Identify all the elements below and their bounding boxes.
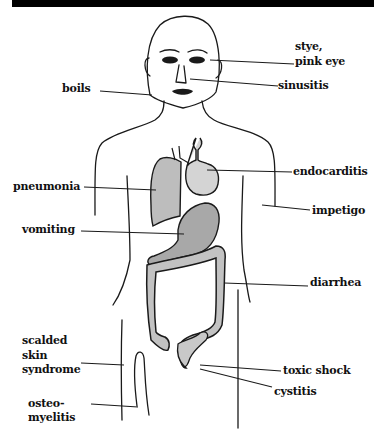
label-endocarditis: endocarditis — [293, 165, 368, 178]
label-skin: skin — [22, 349, 47, 362]
label-osteo: osteo- — [28, 397, 64, 410]
right-torso-line — [242, 176, 250, 302]
label-myelitis: myelitis — [28, 411, 75, 424]
bladder — [177, 332, 207, 367]
label-pink-eye: pink eye — [295, 55, 345, 68]
leader-osteo — [91, 404, 138, 407]
leader-endocarditis — [207, 170, 292, 172]
leader-scalded — [81, 363, 124, 365]
label-boils: boils — [62, 82, 91, 95]
label-stye: stye, — [295, 40, 323, 53]
leader-diarrhea — [224, 283, 308, 286]
label-sinusitis: sinusitis — [278, 79, 328, 92]
femur-outline — [134, 352, 149, 415]
left-hip-line — [121, 320, 122, 420]
label-toxic-shock: toxic shock — [283, 364, 350, 377]
leader-impetigo — [262, 205, 310, 210]
leader-stye — [210, 60, 294, 64]
label-diarrhea: diarrhea — [310, 276, 361, 289]
leader-toxic — [200, 365, 281, 371]
label-pneumonia: pneumonia — [13, 180, 80, 193]
leader-sinusitis — [190, 79, 278, 86]
label-scalded: scalded — [22, 334, 67, 347]
label-syndrome: syndrome — [22, 363, 80, 376]
lung — [151, 158, 181, 226]
leader-cystitis — [200, 369, 272, 387]
leader-boils — [100, 91, 152, 95]
label-vomiting: vomiting — [22, 223, 75, 236]
left-torso-line — [113, 176, 130, 305]
label-impetigo: impetigo — [312, 204, 365, 217]
leader-vomiting — [81, 231, 184, 234]
label-cystitis: cystitis — [274, 385, 316, 398]
heart — [186, 138, 219, 195]
